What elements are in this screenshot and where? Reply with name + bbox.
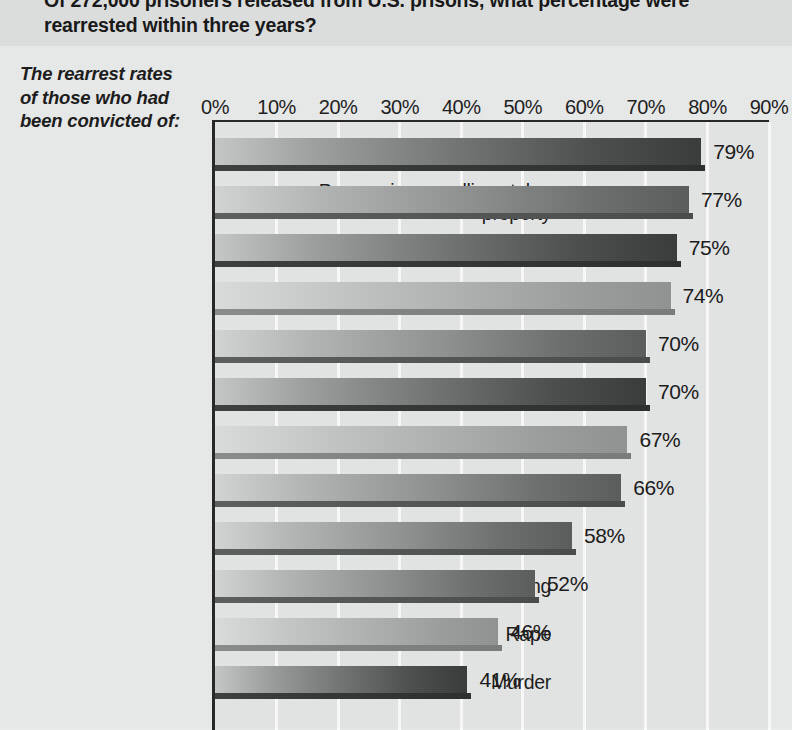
bar-shadow bbox=[215, 165, 705, 171]
x-tick-80: 80% bbox=[688, 96, 727, 119]
x-tick-60: 60% bbox=[565, 96, 604, 119]
bar-value-label: 67% bbox=[639, 428, 680, 452]
bar-fill bbox=[215, 570, 535, 597]
plot-area: 0%10%20%30%40%50%60%70%80%90% Stealing c… bbox=[212, 120, 769, 730]
bar bbox=[215, 330, 646, 362]
x-tick-90: 90% bbox=[750, 96, 789, 119]
bar-value-label: 77% bbox=[701, 188, 742, 212]
bar-fill bbox=[215, 426, 627, 453]
bar-row: Robbery70% bbox=[215, 322, 775, 370]
x-tick-10: 10% bbox=[257, 96, 296, 119]
x-tick-50: 50% bbox=[504, 96, 543, 119]
bar-value-label: 79% bbox=[713, 140, 754, 164]
x-tick-0: 0% bbox=[201, 96, 229, 119]
bar-row: Arson58% bbox=[215, 514, 775, 562]
bar-row: Rape46% bbox=[215, 610, 775, 658]
bar-shadow bbox=[215, 693, 471, 699]
bar-fill bbox=[215, 330, 646, 357]
bar-row: Murder41% bbox=[215, 658, 775, 706]
bar-value-label: 70% bbox=[658, 332, 699, 356]
bar bbox=[215, 378, 646, 410]
bar-shadow bbox=[215, 501, 625, 507]
bar-fill bbox=[215, 186, 689, 213]
bar bbox=[215, 522, 572, 554]
bar-value-label: 41% bbox=[479, 668, 520, 692]
bar-shadow bbox=[215, 357, 650, 363]
bar-fill bbox=[215, 378, 646, 405]
bar-shadow bbox=[215, 549, 576, 555]
x-tick-20: 20% bbox=[319, 96, 358, 119]
bar-fill bbox=[215, 282, 671, 309]
bar bbox=[215, 186, 689, 218]
bar-row: Stealing cars79% bbox=[215, 130, 775, 178]
bar-shadow bbox=[215, 261, 681, 267]
bar bbox=[215, 618, 498, 650]
bar-value-label: 66% bbox=[633, 476, 674, 500]
bar-row: Burglary74% bbox=[215, 274, 775, 322]
bar-row: Illegal weapons70% bbox=[215, 370, 775, 418]
bar-row: Larceny75% bbox=[215, 226, 775, 274]
bar-value-label: 75% bbox=[689, 236, 730, 260]
x-tick-40: 40% bbox=[442, 96, 481, 119]
bar-value-label: 46% bbox=[510, 620, 551, 644]
bar bbox=[215, 282, 671, 314]
bar-row: Possessing or selling stolen property77% bbox=[215, 178, 775, 226]
bar-shadow bbox=[215, 213, 693, 219]
bar bbox=[215, 426, 627, 458]
bar-fill bbox=[215, 666, 467, 693]
bar-shadow bbox=[215, 645, 502, 651]
bar-fill bbox=[215, 474, 621, 501]
bar-shadow bbox=[215, 453, 631, 459]
bar-row: Fraud66% bbox=[215, 466, 775, 514]
bar-value-label: 52% bbox=[547, 572, 588, 596]
bar-shadow bbox=[215, 309, 675, 315]
bar-value-label: 70% bbox=[658, 380, 699, 404]
bar-fill bbox=[215, 234, 677, 261]
bar bbox=[215, 474, 621, 506]
bar-shadow bbox=[215, 405, 650, 411]
bar-value-label: 58% bbox=[584, 524, 625, 548]
bar-fill bbox=[215, 522, 572, 549]
bar-shadow bbox=[215, 597, 539, 603]
bar-value-label: 74% bbox=[683, 284, 724, 308]
x-tick-70: 70% bbox=[627, 96, 666, 119]
bar bbox=[215, 234, 677, 266]
bar-fill bbox=[215, 618, 498, 645]
x-tick-30: 30% bbox=[380, 96, 419, 119]
bar-row: Drunk driving52% bbox=[215, 562, 775, 610]
bar-fill bbox=[215, 138, 701, 165]
bar bbox=[215, 138, 701, 170]
bar bbox=[215, 570, 535, 602]
bar-row: Illegal drugs67% bbox=[215, 418, 775, 466]
bar bbox=[215, 666, 467, 698]
